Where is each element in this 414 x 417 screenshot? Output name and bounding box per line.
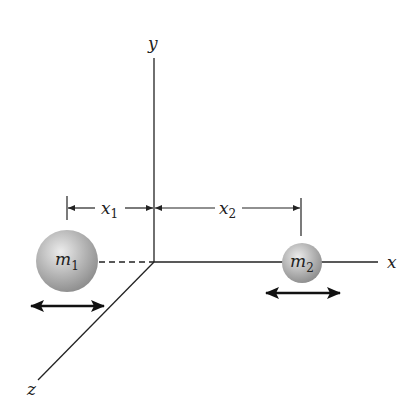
- x2-label-main: x: [219, 198, 229, 218]
- x1-label-sub: 1: [111, 207, 119, 221]
- dimension-x1: x1: [67, 196, 153, 221]
- y-axis-label: y: [147, 33, 158, 53]
- mass-m2-label-sub: 2: [306, 261, 314, 275]
- x1-label: x1: [101, 198, 118, 221]
- x2-label: x2: [219, 198, 236, 221]
- x-axis-label: x: [387, 252, 397, 272]
- x1-label-main: x: [101, 198, 111, 218]
- mass-m1-label-main: m: [55, 249, 71, 269]
- two-mass-coordinate-diagram: y x z x1 x2 m1 m2: [0, 0, 414, 417]
- z-axis-label: z: [26, 379, 37, 399]
- x2-label-sub: 2: [229, 207, 237, 221]
- dimension-x2: x2: [155, 198, 301, 236]
- mass-m2-label-main: m: [290, 251, 306, 271]
- mass-m2: m2: [266, 243, 340, 293]
- mass-m1-label-sub: 1: [71, 259, 79, 273]
- axes: y x z: [26, 33, 397, 399]
- mass-m1: m1: [31, 230, 104, 306]
